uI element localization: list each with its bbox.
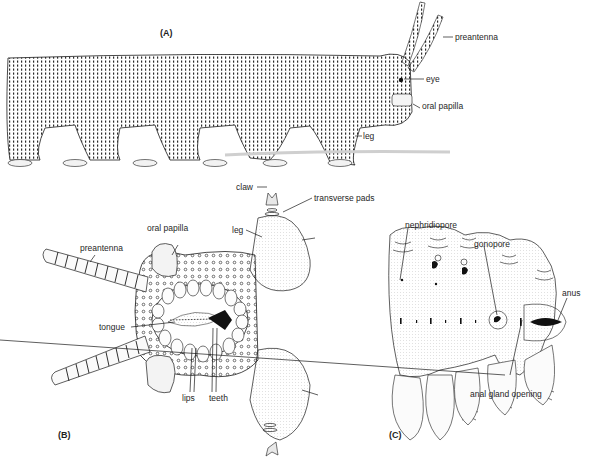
label-b-transverse-pads: transverse pads xyxy=(314,193,374,203)
panel-label-b: (B) xyxy=(58,430,71,440)
label-b-oral-papilla: oral papilla xyxy=(147,223,188,233)
label-c-anus: anus xyxy=(562,288,580,298)
label-b-lips: lips xyxy=(182,393,195,403)
label-a-preantenna: preantenna xyxy=(455,32,498,42)
label-a-eye: eye xyxy=(426,74,440,84)
label-c-gonopore: gonopore xyxy=(474,239,510,249)
label-b-teeth: teeth xyxy=(209,393,228,403)
panel-label-a: (A) xyxy=(160,28,173,38)
onychophoran-figure: (A) (B) (C) preantenna eye oral papilla … xyxy=(0,0,595,466)
panel-label-c: (C) xyxy=(389,430,402,440)
label-b-leg: leg xyxy=(232,225,243,235)
panel-a-drawing xyxy=(7,2,453,167)
label-c-anal-gland-opening: anal gland opening xyxy=(470,389,542,399)
label-b-preantenna: preantenna xyxy=(80,243,123,253)
label-a-leg: leg xyxy=(363,131,374,141)
label-c-nephridiopore: nephridiopore xyxy=(405,220,457,230)
label-b-claw: claw xyxy=(236,182,253,192)
label-a-oral-papilla: oral papilla xyxy=(422,101,463,111)
label-b-tongue: tongue xyxy=(99,322,125,332)
